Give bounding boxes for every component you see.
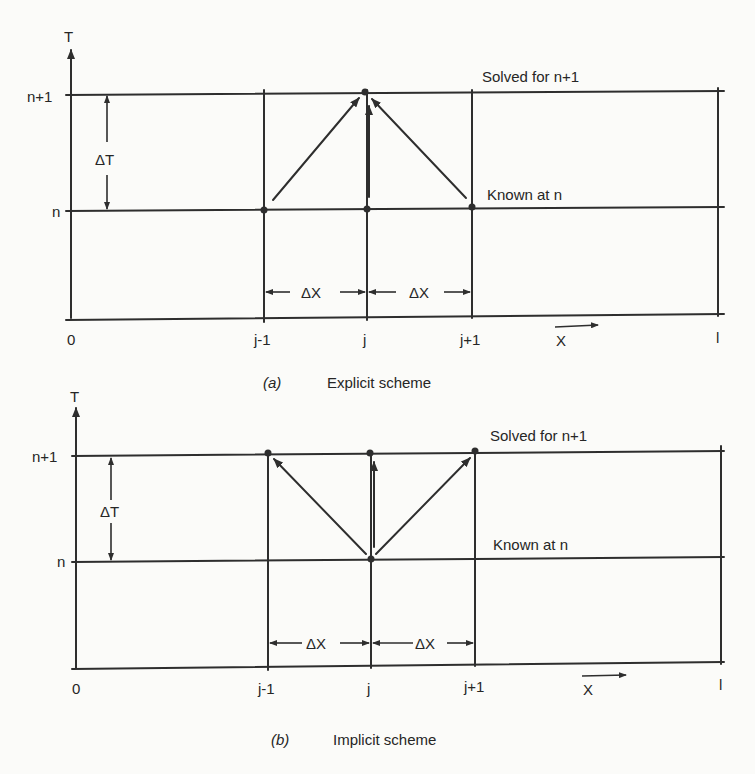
panel-explicit-scheme: T n+1 n ΔT Solved for n+1 Known at n xyxy=(27,28,724,391)
node-j-n-plus-1 xyxy=(362,89,369,96)
caption-letter-a: (a) xyxy=(263,374,281,391)
arrow-j-to-jp1 xyxy=(376,458,470,554)
node-j-plus-1-n-plus-1 xyxy=(472,448,479,455)
x-tick-l: l xyxy=(719,676,722,693)
row-n-line xyxy=(72,557,724,562)
row-n-plus-1-line xyxy=(66,91,724,95)
caption-implicit: Implicit scheme xyxy=(333,731,436,748)
node-j-n xyxy=(368,556,375,563)
x-axis-label: X xyxy=(556,332,566,349)
x-tick-j-minus-1: j-1 xyxy=(253,331,271,348)
x-tick-0: 0 xyxy=(72,680,80,697)
delta-x-label-2: ΔX xyxy=(415,635,435,652)
known-at-label: Known at n xyxy=(487,186,562,203)
finite-difference-figure: T n+1 n ΔT Solved for n+1 Known at n xyxy=(0,0,755,774)
arrow-jp1-to-j xyxy=(372,99,466,198)
arrow-j-to-jm1 xyxy=(274,459,366,554)
node-j-plus-1-n xyxy=(469,204,476,211)
delta-x-label-1: ΔX xyxy=(306,635,326,652)
delta-x-label-2: ΔX xyxy=(409,284,429,301)
y-tick-n: n xyxy=(57,553,65,570)
solved-for-label: Solved for n+1 xyxy=(482,68,579,85)
delta-t-label: ΔT xyxy=(100,503,119,520)
x-direction-arrow xyxy=(555,325,598,327)
x-tick-j-plus-1: j+1 xyxy=(463,678,484,695)
row-n-line xyxy=(66,207,724,211)
x-tick-0: 0 xyxy=(67,331,75,348)
delta-x-label-1: ΔX xyxy=(301,284,321,301)
caption-letter-b: (b) xyxy=(271,731,289,748)
known-at-label: Known at n xyxy=(493,536,568,553)
caption-explicit: Explicit scheme xyxy=(327,374,431,391)
x-axis xyxy=(72,662,724,669)
x-axis xyxy=(66,314,724,320)
node-j-minus-1-n-plus-1 xyxy=(265,450,272,457)
delta-t-label: ΔT xyxy=(95,151,114,168)
x-tick-j-minus-1: j-1 xyxy=(257,680,275,697)
node-j-minus-1-n xyxy=(261,207,268,214)
panel-implicit-scheme: T n+1 n ΔT Solved for n+1 Known at n ΔX … xyxy=(32,388,724,748)
x-tick-l: l xyxy=(716,329,719,346)
node-j-n xyxy=(364,206,371,213)
solved-for-label: Solved for n+1 xyxy=(490,427,587,444)
x-tick-j-plus-1: j+1 xyxy=(459,331,480,348)
t-axis-label: T xyxy=(64,28,73,45)
x-axis-label: X xyxy=(583,681,593,698)
x-tick-j: j xyxy=(366,680,370,697)
node-j-n-plus-1 xyxy=(367,450,374,457)
t-axis-label: T xyxy=(70,388,79,405)
x-direction-arrow xyxy=(582,675,626,676)
arrow-jm1-to-j xyxy=(273,98,359,200)
y-tick-n-plus-1: n+1 xyxy=(27,88,52,105)
y-tick-n-plus-1: n+1 xyxy=(32,448,57,465)
row-n-plus-1-line xyxy=(72,451,724,456)
y-tick-n: n xyxy=(52,203,60,220)
x-tick-j: j xyxy=(362,331,366,348)
